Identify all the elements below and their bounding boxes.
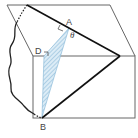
wavy-edge [9,5,42,118]
label-theta: θ [70,30,75,40]
section-lines [27,5,120,118]
shaded-triangle-adb [42,28,69,117]
label-d: D [35,46,42,56]
label-b: B [40,122,46,132]
right-angle-mark-a [58,25,63,31]
geometry-diagram: A θ D B [0,0,138,138]
label-a: A [66,17,72,27]
